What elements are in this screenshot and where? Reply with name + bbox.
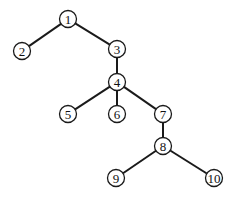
edge-8-10 (170, 151, 207, 174)
node-label: 7 (160, 107, 167, 122)
tree-node-8: 8 (155, 138, 172, 155)
tree-node-5: 5 (60, 106, 77, 123)
node-label: 4 (114, 75, 121, 90)
tree-node-10: 10 (206, 170, 223, 187)
node-label: 6 (114, 107, 121, 122)
node-label: 1 (65, 12, 72, 27)
tree-node-2: 2 (14, 43, 31, 60)
tree-node-6: 6 (109, 106, 126, 123)
node-label: 8 (160, 139, 167, 154)
tree-node-1: 1 (60, 11, 77, 28)
edge-4-5 (75, 87, 110, 110)
edge-8-9 (123, 151, 156, 173)
tree-node-7: 7 (155, 106, 172, 123)
edge-1-3 (75, 23, 110, 44)
node-label: 2 (19, 44, 26, 59)
edge-4-7 (124, 87, 156, 109)
tree-node-9: 9 (108, 170, 125, 187)
node-label: 10 (208, 171, 221, 186)
tree-node-3: 3 (109, 41, 126, 58)
node-label: 5 (65, 107, 72, 122)
tree-diagram: 12345678910 (0, 0, 235, 197)
tree-node-4: 4 (109, 74, 126, 91)
edge-1-2 (29, 24, 61, 46)
node-label: 9 (113, 171, 120, 186)
node-label: 3 (114, 42, 121, 57)
